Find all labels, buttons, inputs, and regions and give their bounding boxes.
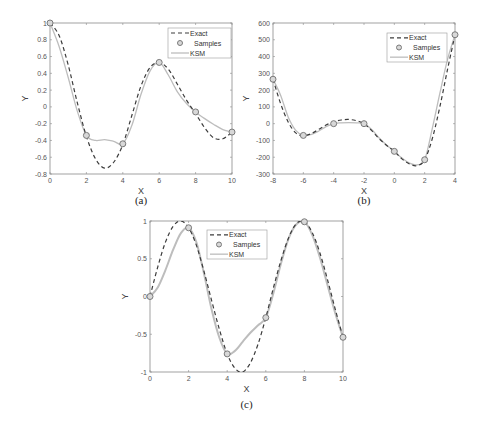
x-tick-label: 10 — [228, 177, 236, 184]
sample-marker — [229, 129, 235, 135]
y-tick-label: -1 — [141, 369, 147, 376]
x-tick-label: -4 — [331, 177, 337, 184]
legend-label: Samples — [413, 44, 441, 52]
y-tick-label: 0.4 — [37, 70, 47, 77]
y-tick-label: 1 — [143, 218, 147, 225]
sample-marker — [47, 20, 53, 26]
y-tick-label: 500 — [258, 36, 270, 43]
y-tick-label: -0.4 — [35, 137, 47, 144]
legend-label: KSM — [229, 251, 244, 258]
sample-marker — [340, 334, 346, 340]
x-tick-label: -2 — [361, 177, 367, 184]
x-tick-label: 0 — [148, 375, 152, 382]
x-tick-label: 6 — [157, 177, 161, 184]
figure: 0246810-0.8-0.6-0.4-0.200.20.40.60.81XY(… — [0, 0, 478, 423]
y-tick-label: -200 — [256, 154, 270, 161]
sample-marker — [422, 157, 428, 163]
y-tick-label: 200 — [258, 87, 270, 94]
y-tick-label: 1 — [43, 20, 47, 27]
y-tick-label: 0.2 — [37, 87, 47, 94]
x-tick-label: 10 — [339, 375, 347, 382]
y-tick-label: -100 — [256, 137, 270, 144]
y-tick-label: 0 — [43, 103, 47, 110]
y-tick-label: -0.8 — [35, 171, 47, 178]
sample-marker — [452, 32, 458, 38]
sample-marker — [224, 351, 230, 357]
figure-caption: (c) — [240, 398, 253, 411]
x-tick-label: 2 — [423, 177, 427, 184]
x-axis-label: X — [243, 384, 249, 394]
legend-label: Exact — [229, 231, 247, 238]
y-axis-label: Y — [20, 95, 30, 101]
legend: ExactSamplesKSM — [207, 230, 267, 259]
y-tick-label: -0.2 — [35, 120, 47, 127]
legend-label: Samples — [233, 241, 261, 249]
x-tick-label: -6 — [300, 177, 306, 184]
x-tick-label: -8 — [270, 177, 276, 184]
legend-samples-swatch — [217, 242, 222, 247]
legend: ExactSamplesKSM — [387, 33, 447, 62]
legend-samples-swatch — [178, 41, 183, 46]
chart-3: 0246810-1-0.500.51XY(c)ExactSamplesKSM — [120, 218, 347, 412]
x-tick-label: 2 — [187, 375, 191, 382]
sample-marker — [391, 148, 397, 154]
y-tick-label: 0 — [143, 293, 147, 300]
x-tick-label: 8 — [194, 177, 198, 184]
x-tick-label: 4 — [453, 177, 457, 184]
chart-1: 0246810-0.8-0.6-0.4-0.200.20.40.60.81XY(… — [20, 20, 236, 208]
y-axis-label: Y — [241, 95, 251, 101]
sample-marker — [300, 132, 306, 138]
y-tick-label: 0.8 — [37, 36, 47, 43]
x-tick-label: 2 — [84, 177, 88, 184]
chart-2: -8-6-4-2024-300-200-10001002003004005006… — [241, 20, 458, 208]
x-tick-label: 6 — [264, 375, 268, 382]
sample-marker — [120, 141, 126, 147]
legend-label: KSM — [190, 50, 205, 57]
y-tick-label: 100 — [258, 103, 270, 110]
sample-marker — [147, 294, 153, 300]
y-tick-label: -0.5 — [135, 331, 147, 338]
y-axis-label: Y — [120, 293, 130, 299]
sample-marker — [270, 76, 276, 82]
legend-label: KSM — [409, 54, 424, 61]
y-tick-label: 400 — [258, 53, 270, 60]
y-tick-label: 0.5 — [137, 255, 147, 262]
sample-marker — [263, 315, 269, 321]
sample-marker — [186, 225, 192, 231]
figure-caption: (a) — [135, 194, 148, 207]
sample-marker — [361, 121, 367, 127]
y-tick-label: 0 — [266, 120, 270, 127]
legend: ExactSamplesKSM — [168, 28, 231, 58]
legend-label: Samples — [194, 40, 222, 48]
x-tick-label: 0 — [392, 177, 396, 184]
figure-caption: (b) — [358, 194, 371, 207]
sample-marker — [193, 109, 199, 115]
sample-marker — [331, 121, 337, 127]
y-tick-label: -300 — [256, 171, 270, 178]
x-tick-label: 8 — [302, 375, 306, 382]
y-tick-label: -0.6 — [35, 154, 47, 161]
legend-samples-swatch — [397, 45, 402, 50]
y-tick-label: 0.6 — [37, 53, 47, 60]
legend-label: Exact — [409, 34, 427, 41]
y-tick-label: 600 — [258, 20, 270, 27]
sample-marker — [156, 59, 162, 65]
y-tick-label: 300 — [258, 70, 270, 77]
sample-marker — [83, 132, 89, 138]
legend-label: Exact — [190, 30, 208, 37]
x-tick-label: 0 — [48, 177, 52, 184]
x-tick-label: 4 — [121, 177, 125, 184]
sample-marker — [301, 219, 307, 225]
x-tick-label: 4 — [225, 375, 229, 382]
